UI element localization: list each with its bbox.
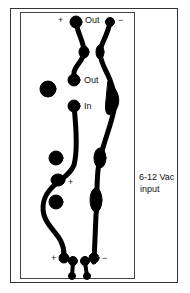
pad-isolated-large bbox=[40, 81, 56, 97]
pad-junction bbox=[79, 46, 89, 58]
pad-ac-1-top bbox=[69, 257, 78, 266]
pad-bottom-minus bbox=[89, 253, 99, 263]
label-mid-plus: + bbox=[68, 178, 73, 187]
trace-blob-right bbox=[105, 82, 118, 115]
label-top-minus: − bbox=[118, 16, 123, 25]
label-in: In bbox=[84, 102, 92, 111]
pad-ac-2-top bbox=[81, 257, 90, 266]
pad-ac-2-bottom bbox=[84, 273, 91, 280]
pad-out-mid bbox=[68, 74, 80, 86]
label-top-out: Out bbox=[85, 16, 100, 25]
pad-bottom-plus bbox=[59, 253, 69, 263]
label-bottom-plus: + bbox=[51, 254, 56, 263]
pad-right-mid bbox=[94, 148, 106, 168]
trace-negative-rail bbox=[94, 22, 115, 262]
label-top-plus: + bbox=[58, 16, 63, 25]
label-mid-out: Out bbox=[84, 76, 99, 85]
pad-right-low bbox=[90, 188, 102, 212]
pad-left-upper bbox=[49, 151, 63, 165]
pad-left-lower bbox=[49, 195, 63, 209]
pad-input-junction bbox=[51, 174, 65, 186]
label-bottom-minus: − bbox=[102, 254, 107, 263]
pcb-traces bbox=[0, 0, 190, 293]
label-supply-voltage: 6-12 Vac bbox=[139, 173, 174, 182]
label-supply-input: input bbox=[140, 185, 160, 194]
pad-junction-right bbox=[96, 45, 104, 59]
pad-ac-1-bottom bbox=[69, 273, 76, 280]
